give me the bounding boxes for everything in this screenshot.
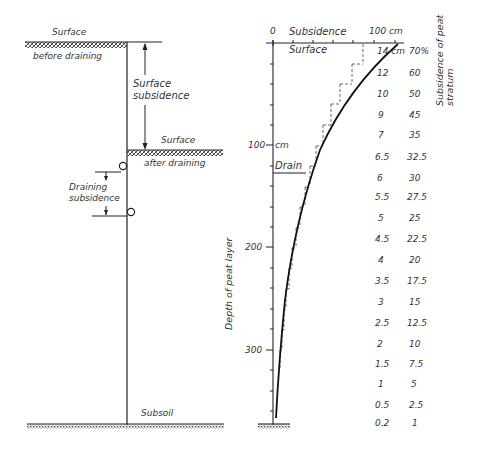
left-profile (25, 42, 224, 429)
percent-value: 60 (409, 69, 420, 78)
before-draining-label: before draining (33, 52, 102, 61)
layer-value: 1 (378, 380, 384, 389)
percent-value: 32.5 (407, 153, 427, 162)
draining-subsidence-label-1: Draining (69, 183, 107, 192)
surface-after-label: Surface (161, 136, 195, 145)
layer-value: 5.5 (375, 193, 389, 202)
layer-value: 9 (378, 111, 384, 120)
percent-value: 5 (411, 380, 417, 389)
percent-value: 45 (409, 111, 420, 120)
right-column-title: Subsidence of peat stratum (435, 6, 455, 106)
percent-value: 35 (409, 131, 420, 140)
layer-value: 4.5 (375, 235, 389, 244)
layer-value: 0.5 (375, 401, 389, 410)
draining-subsidence-label-2: subsidence (69, 194, 120, 203)
percent-value: 20 (409, 256, 420, 265)
percent-value: 17.5 (407, 277, 427, 286)
percent-value: 70% (409, 47, 429, 56)
y-tick-300: 300 (245, 346, 262, 355)
percent-value: 12.5 (407, 319, 427, 328)
layer-value: 12 (377, 69, 388, 78)
percent-value: 1 (412, 419, 418, 428)
y-tick-200: 200 (245, 243, 262, 252)
x-axis-zero: 0 (270, 27, 276, 36)
percent-value: 2.5 (409, 401, 423, 410)
y-axis-title: Depth of peat layer (224, 238, 234, 330)
y-tick-100-unit: cm (275, 141, 289, 150)
layer-value: 2.5 (375, 319, 389, 328)
layer-value: 6 (377, 174, 383, 183)
percent-value: 22.5 (407, 235, 427, 244)
layer-value: 3.5 (375, 277, 389, 286)
surface-subsidence-label-2: subsidence (133, 91, 189, 101)
layer-value: 14 cm (377, 47, 405, 56)
surface-before-label: Surface (52, 28, 86, 37)
layer-value: 3 (378, 298, 384, 307)
after-draining-label: after draining (144, 159, 205, 168)
layer-value: 5 (378, 214, 384, 223)
surface-subsidence-label-1: Surface (133, 79, 171, 89)
surface-axis-label: Surface (289, 45, 327, 55)
layer-value: 6.5 (375, 153, 389, 162)
percent-value: 10 (409, 340, 420, 349)
layer-value: 10 (377, 90, 388, 99)
percent-value: 7.5 (409, 360, 423, 369)
drain-label: Drain (275, 161, 302, 171)
layer-value: 2 (377, 340, 383, 349)
layer-value: 0.2 (375, 419, 389, 428)
y-tick-100: 100 (248, 141, 265, 150)
subsoil-label: Subsoil (141, 409, 173, 418)
percent-value: 15 (409, 298, 420, 307)
layer-value: 1.5 (375, 360, 389, 369)
percent-value: 25 (409, 214, 420, 223)
percent-value: 27.5 (407, 193, 427, 202)
x-axis-title: Subsidence (289, 27, 347, 37)
percent-value: 30 (409, 174, 420, 183)
percent-value: 50 (409, 90, 420, 99)
peat-subsidence-figure: Surface before draining Surface subsiden… (0, 0, 481, 452)
x-axis-max: 100 cm (369, 27, 403, 36)
layer-value: 7 (378, 131, 384, 140)
layer-value: 4 (378, 256, 384, 265)
